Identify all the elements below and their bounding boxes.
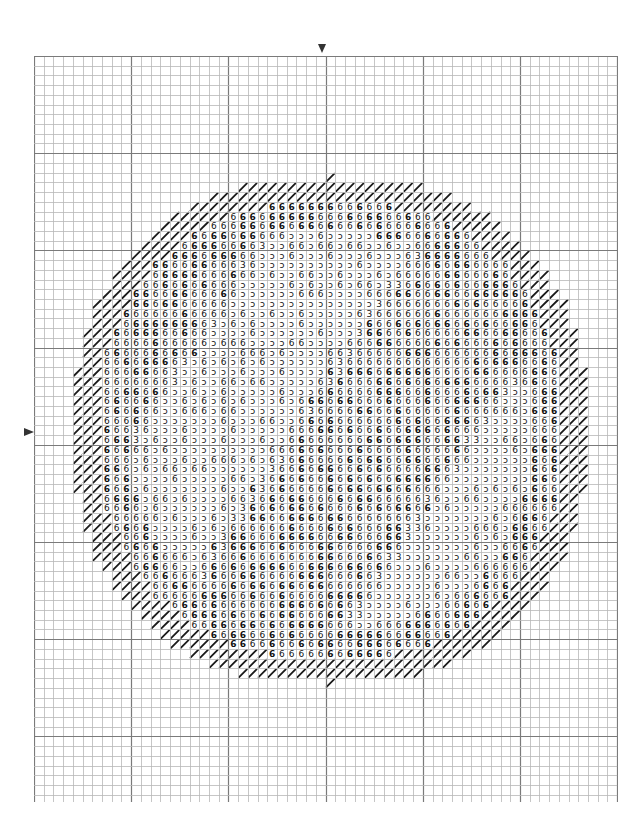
backstitch-diagonal (152, 232, 160, 240)
stitch-symbol: 6 (318, 425, 324, 435)
stitch-symbol: 6 (201, 260, 207, 270)
stitch-symbol: 6 (211, 251, 217, 261)
stitch-symbol: ɔ (211, 464, 216, 474)
stitch-symbol: ɔ (279, 260, 284, 270)
stitch-symbol: ɔ (522, 464, 527, 474)
stitch-symbol: ɔ (289, 299, 294, 309)
stitch-symbol: 6 (337, 406, 343, 416)
stitch-symbol: 6 (425, 377, 431, 387)
backstitch-diagonal (327, 193, 335, 201)
backstitch-diagonal (113, 562, 121, 570)
stitch-symbol: 6 (269, 532, 275, 542)
stitch-symbol: 6 (289, 455, 295, 465)
stitch-symbol: 6 (133, 552, 139, 562)
stitch-symbol: 6 (356, 202, 362, 212)
stitch-symbol: ɔ (309, 241, 314, 251)
stitch-symbol: ɔ (406, 591, 411, 601)
stitch-symbol: ɔ (172, 503, 177, 513)
stitch-symbol: 6 (192, 338, 198, 348)
stitch-symbol: 6 (143, 484, 149, 494)
stitch-symbol: 6 (269, 523, 275, 533)
stitch-symbol: 6 (425, 319, 431, 329)
stitch-symbol: 6 (347, 406, 353, 416)
stitch-symbol: 6 (415, 445, 421, 455)
stitch-symbol: 6 (425, 231, 431, 241)
stitch-symbol: ɔ (454, 503, 459, 513)
stitch-symbol: ɔ (396, 251, 401, 261)
stitch-symbol: 6 (435, 406, 441, 416)
stitch-symbol: 6 (250, 552, 256, 562)
stitch-symbol: 6 (240, 396, 246, 406)
stitch-symbol: ɔ (367, 241, 372, 251)
stitch-symbol: ɔ (406, 241, 411, 251)
backstitch-diagonal (511, 611, 519, 619)
stitch-symbol: ɔ (347, 328, 352, 338)
stitch-symbol: 6 (308, 649, 314, 659)
stitch-symbol: ɔ (309, 309, 314, 319)
stitch-symbol: 6 (308, 212, 314, 222)
stitch-symbol: 6 (328, 445, 334, 455)
stitch-symbol: 6 (288, 581, 294, 591)
stitch-symbol: ɔ (231, 445, 236, 455)
stitch-symbol: 6 (415, 231, 421, 241)
stitch-symbol: 6 (522, 532, 528, 542)
stitch-symbol: ɔ (211, 396, 216, 406)
stitch-symbol: 6 (366, 571, 372, 581)
stitch-symbol: ɔ (221, 513, 226, 523)
backstitch-diagonal (570, 387, 578, 395)
stitch-symbol: 6 (221, 600, 227, 610)
stitch-symbol: 6 (444, 251, 450, 261)
backstitch-diagonal (93, 494, 101, 502)
stitch-symbol: 6 (444, 503, 450, 513)
stitch-symbol: 6 (366, 367, 372, 377)
stitch-symbol: ɔ (231, 396, 236, 406)
stitch-symbol: ɔ (192, 445, 197, 455)
stitch-symbol: ɔ (134, 484, 139, 494)
backstitch-diagonal (200, 222, 208, 230)
stitch-symbol: 6 (415, 221, 421, 231)
stitch-symbol: 6 (318, 523, 324, 533)
stitch-symbol: 6 (318, 231, 324, 241)
stitch-symbol: 6 (260, 212, 266, 222)
stitch-symbol: 6 (182, 552, 188, 562)
stitch-symbol: 6 (483, 357, 489, 367)
stitch-symbol: 6 (347, 445, 353, 455)
stitch-symbol: 6 (220, 231, 226, 241)
stitch-symbol: ɔ (522, 425, 527, 435)
stitch-symbol: 6 (376, 406, 382, 416)
stitch-symbol: 6 (347, 562, 353, 572)
stitch-symbol: 6 (347, 494, 353, 504)
stitch-symbol: 6 (395, 387, 401, 397)
backstitch-diagonal (103, 310, 111, 318)
stitch-symbol: 6 (211, 455, 217, 465)
stitch-symbol: ɔ (153, 445, 158, 455)
stitch-symbol: 6 (182, 241, 188, 251)
backstitch-diagonal (132, 592, 140, 600)
stitch-symbol: 6 (250, 513, 256, 523)
stitch-symbol: 6 (298, 639, 304, 649)
stitch-symbol: ɔ (250, 406, 255, 416)
stitch-symbol: 6 (386, 464, 392, 474)
backstitch-diagonal (103, 329, 111, 337)
backstitch-diagonal (560, 465, 568, 473)
stitch-symbol: 6 (347, 202, 353, 212)
stitch-symbol: 6 (182, 406, 188, 416)
backstitch-diagonal (122, 300, 130, 308)
stitch-symbol: ɔ (425, 513, 430, 523)
stitch-symbol: 6 (337, 270, 343, 280)
backstitch-diagonal (482, 630, 490, 638)
stitch-symbol: ɔ (299, 280, 304, 290)
backstitch-diagonal (492, 611, 500, 619)
stitch-symbol: ɔ (289, 396, 294, 406)
stitch-symbol: 6 (298, 552, 304, 562)
stitch-symbol: 6 (512, 328, 518, 338)
stitch-symbol: ɔ (163, 435, 168, 445)
stitch-symbol: 6 (386, 357, 392, 367)
stitch-symbol: 6 (493, 523, 499, 533)
stitch-symbol: 6 (143, 289, 149, 299)
stitch-symbol: ɔ (386, 571, 391, 581)
backstitch-diagonal (560, 378, 568, 386)
stitch-symbol: ɔ (260, 367, 265, 377)
stitch-symbol: 6 (493, 591, 499, 601)
stitch-symbol: ɔ (270, 406, 275, 416)
